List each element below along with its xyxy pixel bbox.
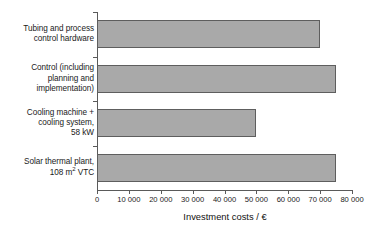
bar — [97, 154, 336, 182]
category-label-line: implementation) — [4, 84, 94, 94]
x-axis-tick — [225, 190, 226, 194]
x-axis-tick-label: 40 000 — [213, 195, 236, 204]
x-axis-tick — [320, 190, 321, 194]
x-axis-tick — [129, 190, 130, 194]
x-axis-tick-label: 20 000 — [149, 195, 172, 204]
x-axis-tick-label: 0 — [95, 195, 99, 204]
x-axis-title: Investment costs / € — [97, 211, 353, 222]
category-label: Tubing and processcontrol hardware — [4, 24, 94, 45]
category-label-line: control hardware — [4, 34, 94, 44]
category-label-line: Cooling machine + — [4, 108, 94, 118]
category-label-line: 108 m2 VTC — [4, 168, 94, 178]
x-axis-tick-label: 80 000 — [340, 195, 363, 204]
y-axis-tick — [93, 101, 97, 102]
y-axis-tick — [93, 146, 97, 147]
y-axis-tick — [93, 12, 97, 13]
x-axis-tick — [193, 190, 194, 194]
x-axis-tick — [256, 190, 257, 194]
category-label-line: Solar thermal plant, — [4, 157, 94, 167]
category-label-line: 58 kW — [4, 128, 94, 138]
x-axis-tick-label: 70 000 — [309, 195, 332, 204]
x-axis-tick — [288, 190, 289, 194]
x-axis-tick-label: 10 000 — [117, 195, 140, 204]
category-label-line: Control (including — [4, 63, 94, 73]
category-label: Control (includingplanning andimplementa… — [4, 63, 94, 94]
superscript-two: 2 — [72, 166, 75, 172]
x-axis-tick — [161, 190, 162, 194]
bar — [97, 20, 320, 48]
x-axis-tick-label: 50 000 — [245, 195, 268, 204]
x-axis-tick — [97, 190, 98, 194]
x-axis-tick-label: 60 000 — [277, 195, 300, 204]
bar — [97, 109, 256, 137]
category-label-line: cooling system, — [4, 118, 94, 128]
bar — [97, 65, 336, 93]
y-axis-tick — [93, 57, 97, 58]
plot-area — [97, 12, 352, 190]
category-label-line: Tubing and process — [4, 24, 94, 34]
category-label-line: planning and — [4, 74, 94, 84]
bar-chart: Tubing and processcontrol hardwareContro… — [0, 0, 374, 235]
category-label: Cooling machine +cooling system,58 kW — [4, 108, 94, 139]
category-label: Solar thermal plant,108 m2 VTC — [4, 157, 94, 178]
x-axis-tick-label: 30 000 — [181, 195, 204, 204]
x-axis-tick — [352, 190, 353, 194]
